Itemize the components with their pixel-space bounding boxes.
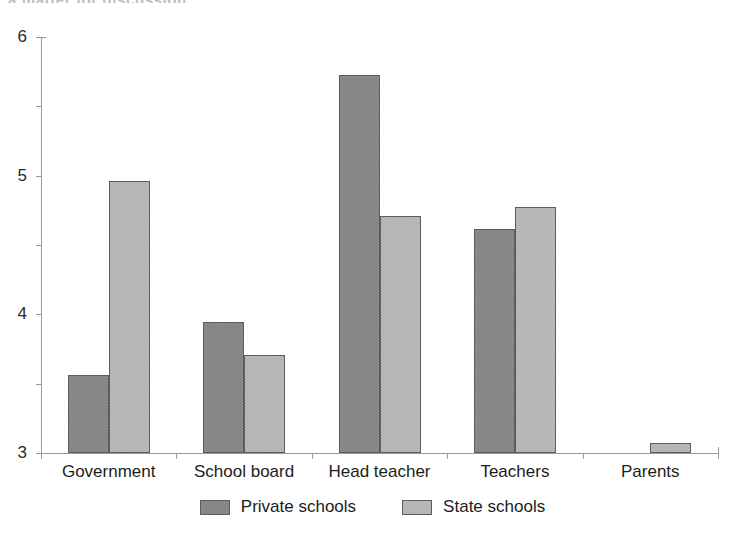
x-axis-label: Parents	[621, 462, 680, 482]
legend-swatch-private	[200, 500, 230, 515]
x-tick	[312, 453, 313, 459]
bar-state	[515, 207, 556, 453]
chart-legend: Private schoolsState schools	[0, 497, 745, 517]
bar-state	[650, 443, 691, 453]
x-axis-label: Government	[62, 462, 156, 482]
bar-private	[339, 75, 380, 453]
y-tick: 1	[36, 384, 42, 385]
x-axis-label: Head teacher	[328, 462, 430, 482]
y-tick: 2	[36, 314, 42, 315]
legend-label: Private schools	[241, 497, 356, 517]
y-tick-label: 6	[18, 27, 27, 47]
bar-state	[244, 355, 285, 453]
y-tick-label: 3	[18, 443, 27, 463]
legend-item: State schools	[402, 497, 545, 517]
x-axis-label: School board	[194, 462, 294, 482]
x-tick	[583, 453, 584, 459]
x-axis-label: Teachers	[480, 462, 549, 482]
x-tick	[41, 453, 42, 459]
y-tick: 4	[36, 176, 42, 177]
bar-chart-figure: a matter for discussion 0123456 Governme…	[0, 0, 745, 542]
y-tick: 3	[36, 245, 42, 246]
legend-swatch-state	[402, 500, 432, 515]
x-axis	[41, 453, 718, 454]
y-tick: 5	[36, 106, 42, 107]
y-tick: 6	[36, 37, 42, 38]
x-tick	[447, 453, 448, 459]
x-tick	[718, 453, 719, 459]
bar-state	[380, 216, 421, 453]
x-tick	[176, 453, 177, 459]
y-tick-label: 4	[18, 304, 27, 324]
bar-state	[109, 181, 150, 453]
y-tick-label: 5	[18, 166, 27, 186]
bar-private	[68, 375, 109, 453]
cut-off-title: a matter for discussion	[8, 0, 648, 3]
bar-private	[203, 322, 244, 453]
bar-private	[474, 229, 515, 453]
legend-item: Private schools	[200, 497, 356, 517]
legend-label: State schools	[443, 497, 545, 517]
plot-area: 0123456	[41, 37, 718, 453]
